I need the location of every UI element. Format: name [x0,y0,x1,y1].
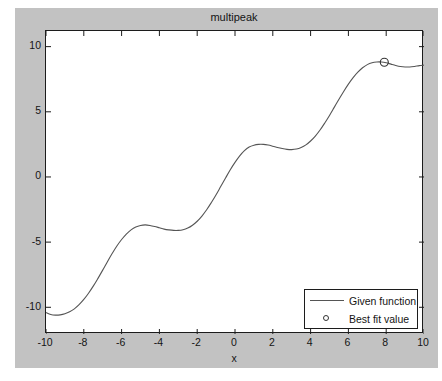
x-tick-label: 8 [365,336,405,348]
plot-area: Given function Best fit value [45,30,423,333]
x-tick-label: -10 [25,336,65,348]
y-tick-label: 5 [7,105,41,116]
legend-entry-given-function[interactable]: Given function [305,291,419,310]
y-tick-label: 0 [7,170,41,181]
x-tick-label: 0 [214,336,254,348]
page-title: multipeak [45,10,423,24]
legend-label-best-fit-value: Best fit value [349,313,409,325]
x-tick-label: 10 [403,336,442,348]
x-tick-label: -4 [138,336,178,348]
x-tick-label: 6 [327,336,367,348]
x-tick-label: 2 [252,336,292,348]
y-tick-label: -5 [7,236,41,247]
x-axis-label: x [45,352,423,364]
x-axis-tick-labels: -10-8-6-4-20246810 [45,336,423,350]
legend-circle-marker-icon [305,309,349,328]
x-tick-label: 4 [290,336,330,348]
x-tick-label: -2 [176,336,216,348]
given-function-curve [46,62,424,315]
y-axis-tick-labels: -10-50510 [4,30,41,333]
x-tick-label: -6 [101,336,141,348]
y-tick-label: -10 [7,301,41,312]
legend-entry-best-fit-value[interactable]: Best fit value [305,309,419,328]
x-tick-label: -8 [63,336,103,348]
legend[interactable]: Given function Best fit value [304,289,418,329]
y-tick-label: 10 [7,40,41,51]
legend-label-given-function: Given function [349,295,416,307]
legend-line-icon [305,291,349,310]
